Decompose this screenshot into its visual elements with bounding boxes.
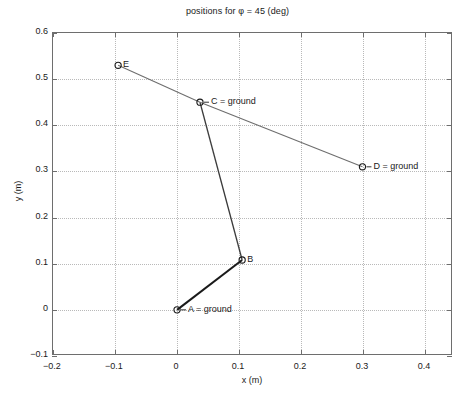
link-E-C <box>118 65 200 102</box>
x-tick-label: 0.3 <box>342 361 382 371</box>
x-tick-label: −0.1 <box>94 361 134 371</box>
point-label-e: E <box>123 59 129 69</box>
point-label-a: A = ground <box>188 304 232 314</box>
data-point-marker-e[interactable] <box>115 62 121 68</box>
x-tick-label: 0.4 <box>404 361 444 371</box>
x-axis-label: x (m) <box>52 375 452 385</box>
y-tick-label: −0.1 <box>14 349 48 359</box>
link-A-B <box>177 260 242 310</box>
x-tick-label: 0.1 <box>218 361 258 371</box>
link-B-C <box>200 102 242 260</box>
y-axis-label: y (m) <box>13 151 23 231</box>
plot-area: A = groundBC = groundD = groundE <box>52 32 452 355</box>
y-tick-label: 0.5 <box>14 72 48 82</box>
x-tick-label: −0.2 <box>32 361 72 371</box>
y-tick-label: 0.4 <box>14 118 48 128</box>
data-plane <box>53 33 453 356</box>
y-tick-mark <box>52 356 57 357</box>
figure-canvas: positions for φ = 45 (deg) A = groundBC … <box>0 0 475 397</box>
x-tick-label: 0.2 <box>280 361 320 371</box>
x-tick-label: 0 <box>156 361 196 371</box>
y-tick-label: 0.6 <box>14 26 48 36</box>
point-label-c: C = ground <box>211 96 256 106</box>
y-tick-label: 0.1 <box>14 257 48 267</box>
link-C-D <box>200 102 362 167</box>
point-label-d: D = ground <box>373 161 418 171</box>
y-tick-mark <box>447 356 452 357</box>
chart-title: positions for φ = 45 (deg) <box>0 6 475 16</box>
y-tick-label: 0 <box>14 303 48 313</box>
point-label-b: B <box>247 254 253 264</box>
